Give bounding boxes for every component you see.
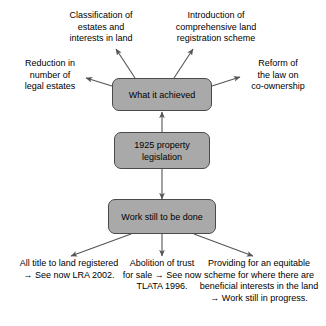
label-introduction: Introduction of comprehensive land regis… [163,10,269,45]
node-what-it-achieved[interactable]: What it achieved [112,78,212,111]
label-reform: Reform of the law on co-ownership [239,58,317,93]
connector-achieved-to-reform [212,77,240,86]
connector-achieved-to-classification [116,49,135,78]
node-1925-property-legislation[interactable]: 1925 property legislation [114,132,210,169]
connector-work-to-title-registration [71,234,131,256]
connector-achieved-to-reduction [86,78,112,86]
node-work-still-to-be-done[interactable]: Work still to be done [108,199,216,234]
label-equitable-scheme: Providing for an equitable scheme for wh… [196,258,322,304]
diagram-canvas: Classification of estates and interests … [0,0,326,326]
label-trust-for-sale: Abolition of trust for sale → See now TL… [117,258,207,293]
label-classification: Classification of estates and interests … [58,10,144,45]
connector-achieved-to-introduction [174,49,193,78]
label-title-registration: All title to land registered → See now L… [8,258,130,281]
connector-work-to-equitable-scheme [194,234,253,256]
label-reduction: Reduction in number of legal estates [12,58,88,93]
